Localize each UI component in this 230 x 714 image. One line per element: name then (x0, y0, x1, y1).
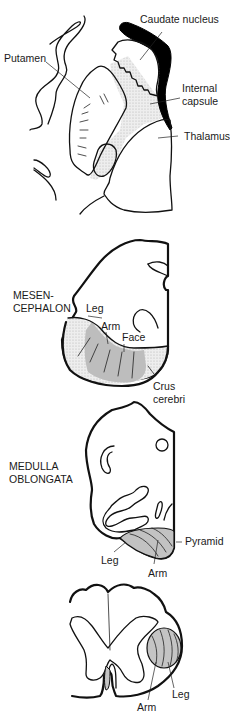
medulla-nucleus-circle (156, 439, 168, 451)
arm-label-mid: Arm (101, 320, 121, 332)
brainstem-outline (80, 196, 104, 214)
inferior-olive (103, 486, 148, 532)
red-nucleus-arc (133, 310, 158, 332)
thalamus-label: Thalamus (184, 130, 230, 142)
medulla-label-2: OBLONGATA (9, 473, 73, 485)
mesencephalon-label-1: MESEN- (13, 289, 54, 301)
thalamus (104, 119, 172, 212)
medulla-small-oval (155, 502, 162, 519)
spinal-cord-panel: Leg Arm (70, 585, 190, 713)
arm-label-cord: Arm (137, 701, 157, 713)
corticospinal-diagram: Caudate nucleus Putamen Internal capsule… (0, 0, 230, 714)
aqueduct-curve-2 (148, 264, 168, 276)
medulla-label-1: MEDULLA (9, 460, 59, 472)
pyramid-label: Pyramid (185, 535, 224, 547)
aqueduct-curve (148, 262, 168, 266)
cortex-outline-outer (30, 22, 80, 130)
internal-capsule-label-2: capsule (182, 95, 218, 107)
mesencephalon-panel: MESEN- CEPHALON Leg Arm Face Crus cerebr… (13, 240, 185, 405)
medulla-panel: MEDULLA OBLONGATA Pyramid Leg Arm (9, 402, 224, 579)
face-label-mid: Face (122, 331, 146, 343)
anterior-corticospinal-tract (105, 666, 111, 690)
arm-leader-cord (148, 662, 156, 700)
cortex-fold-lower (34, 160, 50, 177)
crus-cerebri-label-2: cerebri (153, 393, 185, 405)
putamen-label: Putamen (4, 52, 46, 64)
medulla-line (164, 504, 172, 520)
caudate-nucleus-label: Caudate nucleus (140, 13, 219, 25)
internal-capsule-label-1: Internal (182, 82, 217, 94)
forebrain-panel: Caudate nucleus Putamen Internal capsule… (4, 13, 230, 214)
leg-label-mid: Leg (86, 302, 104, 314)
cortex-fold-lower2 (34, 170, 56, 200)
leg-label-cord: Leg (172, 688, 190, 700)
arm-label-med: Arm (148, 567, 168, 579)
crus-cerebri-label-1: Crus (153, 380, 175, 392)
leg-label-med: Leg (101, 554, 119, 566)
internal-capsule (90, 56, 168, 180)
mesencephalon-label-2: CEPHALON (13, 302, 71, 314)
leg-leader-med (114, 542, 126, 552)
gray-matter (70, 616, 158, 682)
medulla-vestibular-arc (101, 446, 114, 473)
leg-leader-mid (88, 316, 102, 318)
anterior-median-fissure (108, 594, 110, 650)
thalamus-leader (158, 136, 178, 138)
